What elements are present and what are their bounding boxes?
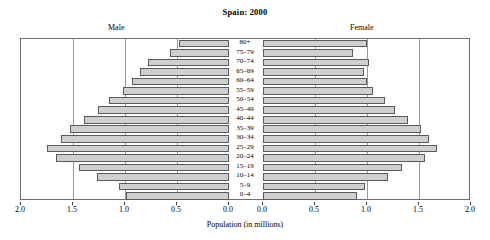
bar-male-5–9 [119,183,229,191]
bar-row [263,163,471,173]
bar-row [21,163,229,173]
age-label-35–39: 35–39 [228,124,262,134]
bar-row [21,191,229,201]
age-label-10–14: 10–14 [228,171,262,181]
chart-title: Spain: 2000 [0,7,490,17]
bar-row [21,77,229,87]
female-series-label: Female [350,23,374,32]
bar-row [21,134,229,144]
bar-row [263,144,471,154]
bar-female-70–74 [263,59,369,67]
bar-male-75–79 [170,49,229,57]
age-label-40–44: 40–44 [228,114,262,124]
age-label-75–79: 75–79 [228,48,262,58]
bar-male-65–69 [140,68,229,76]
bar-row [263,134,471,144]
bar-male-35–39 [70,125,229,133]
tick-label-2.0: 2.0 [465,205,475,214]
bar-row [263,106,471,116]
tick-label-1.0: 1.0 [361,205,371,214]
bar-male-20–24 [56,154,229,162]
bar-female-10–14 [263,173,388,181]
bar-row [21,96,229,106]
age-label-80+: 80+ [228,38,262,48]
tick-label-0.5: 0.5 [309,205,319,214]
bar-row [21,87,229,97]
x-axis-title: Population (in millions) [0,220,490,229]
age-label-50–54: 50–54 [228,95,262,105]
bar-female-30–34 [263,135,429,143]
age-label-25–29: 25–29 [228,143,262,153]
bar-female-80+ [263,40,367,48]
bar-male-80+ [179,40,229,48]
bar-row [263,191,471,201]
bar-male-50–54 [109,97,229,105]
tick-label-0.0: 0.0 [257,205,267,214]
bar-row [21,106,229,116]
bar-female-20–24 [263,154,425,162]
bar-female-45–49 [263,106,395,114]
bar-row [263,49,471,59]
bar-row [263,172,471,182]
bar-male-10–14 [97,173,229,181]
bar-male-55–59 [123,87,229,95]
bar-row [21,153,229,163]
bar-male-15–19 [79,164,229,172]
bar-row [21,172,229,182]
population-pyramid-chart: Spain: 2000 Male Female 80+75–7970–7465–… [0,0,490,240]
bar-female-0–4 [263,192,357,200]
age-label-60–64: 60–64 [228,76,262,86]
bar-row [263,96,471,106]
female-bars-panel [263,39,471,199]
male-bars-panel [21,39,229,199]
bar-male-45–49 [98,106,229,114]
bar-row [21,144,229,154]
bar-row [263,87,471,97]
bar-row [21,68,229,78]
bar-row [21,49,229,59]
bar-row [263,115,471,125]
right-x-axis-ticks: 0.00.51.01.52.0 [0,202,490,212]
bar-male-70–74 [148,59,229,67]
age-label-55–59: 55–59 [228,86,262,96]
bar-male-0–4 [126,192,229,200]
age-label-30–34: 30–34 [228,133,262,143]
age-label-65–69: 65–69 [228,67,262,77]
bar-male-30–34 [61,135,229,143]
age-label-0–4: 0–4 [228,190,262,200]
bar-male-25–29 [47,145,229,153]
bar-row [263,125,471,135]
bar-row [263,68,471,78]
age-label-70–74: 70–74 [228,57,262,67]
bar-row [263,182,471,192]
bar-female-5–9 [263,183,365,191]
age-group-axis: 80+75–7970–7465–6960–6455–5950–5445–4940… [228,38,262,200]
bar-female-55–59 [263,87,373,95]
bar-row [21,125,229,135]
age-label-20–24: 20–24 [228,152,262,162]
tick-label-1.5: 1.5 [413,205,423,214]
bar-row [21,182,229,192]
bar-female-60–64 [263,78,367,86]
bar-female-65–69 [263,68,364,76]
bar-male-60–64 [132,78,229,86]
bar-female-15–19 [263,164,402,172]
bar-male-40–44 [84,116,229,124]
bar-female-35–39 [263,125,421,133]
bar-female-75–79 [263,49,353,57]
male-series-label: Male [108,23,124,32]
bar-row [263,39,471,49]
bar-row [263,77,471,87]
bar-female-50–54 [263,97,385,105]
bar-female-40–44 [263,116,408,124]
bar-row [263,153,471,163]
bar-row [21,58,229,68]
age-label-45–49: 45–49 [228,105,262,115]
bar-female-25–29 [263,145,437,153]
age-label-15–19: 15–19 [228,162,262,172]
bar-row [263,58,471,68]
bar-row [21,39,229,49]
bar-row [21,115,229,125]
age-label-5–9: 5–9 [228,181,262,191]
